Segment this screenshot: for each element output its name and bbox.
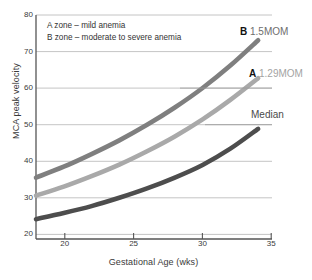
series-callout-median: Median (251, 110, 284, 120)
series-callout-a: A 1.29MOM (249, 69, 303, 79)
series-tag-b: B (240, 26, 247, 37)
zone-annotation: A zone – mild anemia B zone – moderate t… (47, 20, 181, 43)
zone-annotation-line-b: B zone – moderate to severe anemia (47, 32, 181, 44)
x-tick-marks (65, 233, 271, 239)
series-curve-a (36, 78, 258, 195)
series-value-b: 1.5MOM (250, 26, 288, 37)
y-tick-label-30: 30 (11, 194, 33, 202)
x-tick-label-35: 35 (258, 240, 284, 248)
series-callout-b: B 1.5MOM (240, 27, 288, 37)
series-value-a: 1.29MOM (259, 68, 303, 79)
y-axis-title: MCA peak velocity (11, 41, 21, 161)
series-layer (36, 40, 258, 219)
mca-peak-velocity-chart: 80 70 60 50 40 30 20 20 25 30 35 MCA pea… (0, 0, 312, 280)
x-tick-label-20: 20 (52, 240, 78, 248)
series-tag-a: A (249, 68, 256, 79)
x-tick-label-25: 25 (121, 240, 147, 248)
series-curve-b (36, 40, 258, 177)
y-tick-label-80: 80 (11, 11, 33, 19)
x-tick-label-30: 30 (189, 240, 215, 248)
y-tick-label-20: 20 (11, 230, 33, 238)
x-axis-title: Gestational Age (wks) (35, 257, 272, 267)
series-curve-median (36, 129, 258, 219)
zone-annotation-line-a: A zone – mild anemia (47, 20, 181, 32)
